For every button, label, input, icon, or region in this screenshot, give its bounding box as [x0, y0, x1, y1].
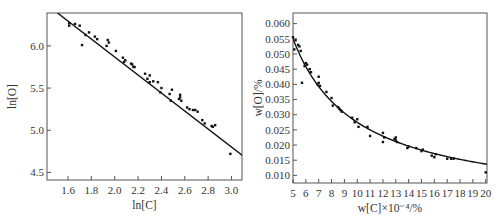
data-point — [309, 68, 311, 70]
data-point — [382, 132, 384, 134]
data-point — [357, 126, 359, 128]
y-tick-label: 0.050 — [265, 48, 290, 60]
data-point — [341, 110, 343, 112]
data-point — [317, 76, 319, 78]
x-tick-label: 7 — [316, 187, 322, 199]
data-point — [306, 63, 308, 65]
y-tick-label: 0.035 — [265, 93, 290, 105]
data-point — [317, 82, 319, 84]
x-tick-label: 12 — [377, 187, 388, 199]
data-point — [450, 158, 452, 160]
x-tick-label: 14 — [403, 187, 415, 199]
data-point — [298, 45, 300, 47]
data-point — [369, 135, 371, 137]
y-tick-label: 0.060 — [265, 17, 290, 29]
data-point — [395, 136, 397, 138]
data-point — [300, 50, 302, 52]
data-point — [330, 97, 332, 99]
data-point — [366, 126, 368, 128]
plot-frame — [293, 13, 487, 183]
y-tick-label: 0.015 — [265, 154, 290, 166]
y-tick-label: 0.055 — [265, 33, 290, 45]
chart-wo-vs-wc: 0.0100.0150.0200.0250.0300.0350.0400.045… — [0, 0, 498, 224]
data-point — [452, 158, 454, 160]
data-point — [353, 121, 355, 123]
x-tick-label: 20 — [480, 187, 492, 199]
y-tick-label: 0.025 — [265, 124, 290, 136]
data-point — [407, 145, 409, 147]
fit-line — [293, 39, 487, 164]
y-tick-label: 0.040 — [265, 78, 290, 90]
data-point — [383, 136, 385, 138]
data-point — [433, 156, 435, 158]
data-point — [294, 39, 296, 41]
data-point — [351, 117, 353, 119]
x-tick-label: 17 — [442, 187, 454, 199]
data-point — [319, 85, 321, 87]
x-axis-label: w[C]×10⁻⁴/% — [358, 202, 423, 214]
data-point — [431, 154, 433, 156]
data-point — [356, 118, 358, 120]
x-tick-label: 15 — [416, 187, 428, 199]
data-point — [485, 171, 487, 173]
data-point — [332, 104, 334, 106]
x-tick-label: 18 — [455, 187, 467, 199]
x-tick-label: 10 — [352, 187, 364, 199]
x-tick-label: 6 — [303, 187, 309, 199]
x-tick-label: 16 — [429, 187, 441, 199]
x-tick-label: 8 — [329, 187, 335, 199]
x-tick-label: 9 — [342, 187, 348, 199]
y-tick-label: 0.045 — [265, 63, 290, 75]
data-point — [325, 91, 327, 93]
figure: 4.55.05.56.01.61.82.02.22.42.62.83.0ln[C… — [0, 0, 498, 224]
x-tick-label: 19 — [467, 187, 479, 199]
data-point — [310, 71, 312, 73]
data-point — [422, 148, 424, 150]
data-point — [415, 147, 417, 149]
data-point — [382, 141, 384, 143]
data-point — [446, 158, 448, 160]
data-point — [293, 48, 295, 50]
y-tick-label: 0.030 — [265, 108, 290, 120]
x-tick-label: 13 — [390, 187, 402, 199]
x-tick-label: 5 — [290, 187, 296, 199]
y-axis-label: w[O]/% — [252, 79, 264, 116]
data-point — [292, 36, 294, 38]
data-point — [396, 141, 398, 143]
x-tick-label: 11 — [365, 187, 376, 199]
y-tick-label: 0.010 — [265, 169, 290, 181]
y-tick-label: 0.020 — [265, 139, 290, 151]
data-point — [303, 65, 305, 67]
data-point — [301, 82, 303, 84]
data-point — [434, 153, 436, 155]
